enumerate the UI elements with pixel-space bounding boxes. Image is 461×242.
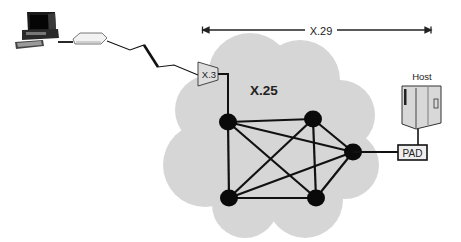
- switch-node: [220, 190, 238, 207]
- host-label: Host: [412, 71, 432, 82]
- modem-icon: [73, 33, 107, 44]
- x25-network-diagram: X.29 X.3 X.25: [0, 0, 461, 242]
- pad-label: PAD: [403, 148, 423, 159]
- switch-node: [307, 190, 325, 207]
- switch-node: [219, 114, 237, 131]
- host-icon: [402, 86, 441, 129]
- x25-label: X.25: [250, 83, 278, 98]
- switch-node: [304, 111, 322, 128]
- x29-label: X.29: [310, 25, 333, 37]
- terminal-icon: [15, 12, 59, 49]
- x3-label: X.3: [202, 69, 216, 80]
- x25-cloud: [163, 33, 379, 238]
